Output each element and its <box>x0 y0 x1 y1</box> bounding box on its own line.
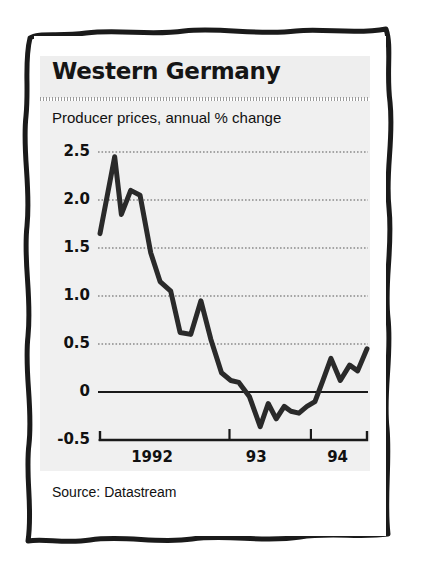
chart-card-root: Western Germany Producer prices, annual … <box>0 0 421 571</box>
page-title: Western Germany <box>52 58 352 84</box>
y-axis-tick-label: 0.5 <box>48 336 90 351</box>
y-axis-tick-label: 0 <box>48 384 90 399</box>
x-axis-tick-label: 94 <box>308 450 368 465</box>
y-axis-tick-label: 1.5 <box>48 240 90 255</box>
y-axis-tick-label: 2.5 <box>48 144 90 159</box>
y-axis-tick-label: 2.0 <box>48 192 90 207</box>
x-axis-tick-label: 1992 <box>122 450 182 465</box>
x-axis-tick-label: 93 <box>226 450 286 465</box>
chart-subtitle: Producer prices, annual % change <box>52 109 281 126</box>
y-axis-tick-label: -0.5 <box>48 432 90 447</box>
source-label: Source: Datastream <box>52 484 177 500</box>
y-axis-tick-label: 1.0 <box>48 288 90 303</box>
